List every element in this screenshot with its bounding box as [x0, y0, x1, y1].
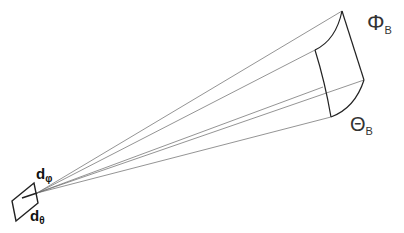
d-theta-label: dθ: [30, 208, 45, 223]
phi-b-label: ΦB: [367, 12, 392, 34]
rays: [37, 11, 364, 193]
beam-diagram: [0, 0, 404, 233]
beam-face: [315, 11, 364, 117]
d-phi-label: dφ: [36, 166, 52, 181]
theta-b-label: ΘB: [350, 114, 373, 134]
